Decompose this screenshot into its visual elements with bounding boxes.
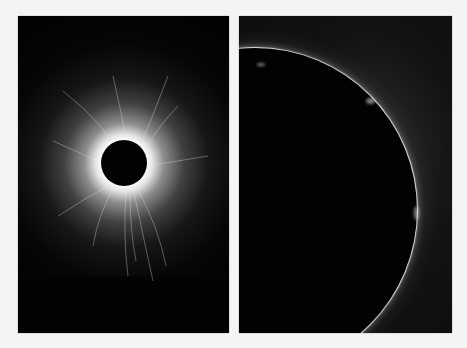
moon-disk [101,140,147,186]
prominence-top [257,63,265,66]
eclipse-corona-photo [18,16,229,333]
prominence-upper-right [366,98,375,104]
eclipse-limb-photo [239,16,452,333]
prominence-right [414,206,419,220]
